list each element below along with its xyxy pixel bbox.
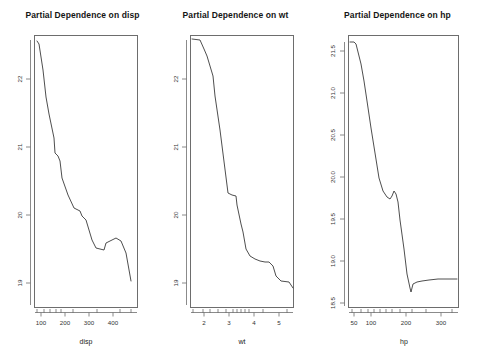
panel-disp: Partial Dependence on disp 22 21 20 19 bbox=[0, 0, 165, 357]
x-tick-label: 4 bbox=[252, 319, 256, 326]
plot-frame bbox=[349, 36, 459, 308]
x-tick-label: 50 bbox=[351, 319, 358, 326]
y-tick-label: 20 bbox=[172, 211, 179, 218]
x-tick-label: 3 bbox=[227, 319, 231, 326]
x-axis-title: hp bbox=[400, 338, 408, 346]
y-tick-label: 20.0 bbox=[329, 170, 336, 183]
partial-dependence-curve bbox=[192, 39, 293, 288]
x-tick-label: 100 bbox=[36, 319, 47, 326]
plot-wt: 22 21 20 19 2 3 4 5 wt bbox=[158, 0, 313, 357]
panel-wt: Partial Dependence on wt 22 21 20 19 bbox=[158, 0, 313, 357]
y-tick-label: 19 bbox=[172, 279, 179, 286]
partial-dependence-curve bbox=[37, 41, 131, 281]
x-axis-title: wt bbox=[238, 338, 246, 345]
x-tick-label: 300 bbox=[84, 319, 95, 326]
x-tick-label: 200 bbox=[60, 319, 71, 326]
y-tick-label: 19.5 bbox=[329, 212, 336, 225]
x-tick-label: 2 bbox=[202, 319, 206, 326]
x-tick-label: 300 bbox=[436, 319, 447, 326]
plot-frame bbox=[191, 36, 294, 308]
partial-dependence-curve bbox=[350, 42, 457, 292]
x-axis-title: disp bbox=[80, 338, 93, 346]
y-tick-label: 22 bbox=[172, 75, 179, 82]
plot-disp: 22 21 20 19 100 200 300 400 disp bbox=[0, 0, 165, 357]
y-tick-label: 20.5 bbox=[329, 128, 336, 141]
y-tick-label: 21.5 bbox=[329, 44, 336, 57]
x-tick-label: 400 bbox=[108, 319, 119, 326]
panel-hp: Partial Dependence on hp 21.5 21.0 20.5 … bbox=[316, 0, 479, 357]
y-tick-label: 18.5 bbox=[329, 296, 336, 309]
y-tick-label: 21 bbox=[16, 143, 23, 150]
y-tick-label: 20 bbox=[16, 211, 23, 218]
y-tick-label: 19.0 bbox=[329, 254, 336, 267]
y-tick-label: 21 bbox=[172, 143, 179, 150]
x-tick-label: 100 bbox=[366, 319, 377, 326]
y-tick-label: 22 bbox=[16, 75, 23, 82]
x-tick-label: 5 bbox=[277, 319, 281, 326]
figure-canvas: Partial Dependence on disp 22 21 20 19 bbox=[0, 0, 479, 357]
y-tick-label: 21.0 bbox=[329, 86, 336, 99]
x-tick-label: 200 bbox=[401, 319, 412, 326]
plot-hp: 21.5 21.0 20.5 20.0 19.5 19.0 18.5 50 bbox=[316, 0, 479, 357]
plot-frame bbox=[35, 36, 138, 308]
y-tick-label: 19 bbox=[16, 279, 23, 286]
